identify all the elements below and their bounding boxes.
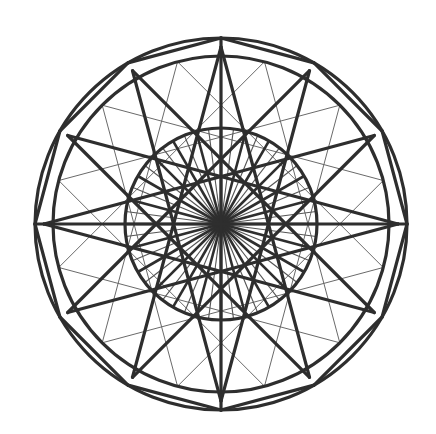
star-polygons bbox=[35, 38, 407, 410]
rosette-drawing bbox=[0, 0, 436, 434]
dodecagon-edge bbox=[382, 131, 407, 224]
dodecagon-edge bbox=[314, 317, 382, 385]
dodecagon-edge bbox=[221, 385, 314, 410]
dodecagon-edge bbox=[60, 63, 128, 131]
dodecagon-edge bbox=[35, 131, 60, 224]
dodecagon-edge bbox=[128, 38, 221, 63]
dodecagon-edge bbox=[35, 224, 60, 317]
dodecagon-edge bbox=[60, 317, 128, 385]
dodecagon-edge bbox=[221, 38, 314, 63]
rosette-figure: Twelve-fold geometric rosette bbox=[0, 0, 436, 434]
dodecagon-edge bbox=[314, 63, 382, 131]
dodecagon-edge bbox=[128, 385, 221, 410]
dodecagon-edge bbox=[382, 224, 407, 317]
